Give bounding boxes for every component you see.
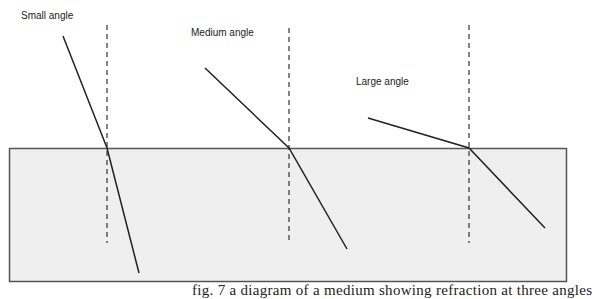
label-large-angle: Large angle: [356, 76, 409, 87]
label-medium-angle: Medium angle: [191, 27, 254, 38]
label-small-angle: Small angle: [21, 10, 73, 21]
medium-block: [10, 149, 567, 282]
figure-caption: fig. 7 a diagram of a medium showing ref…: [192, 282, 592, 299]
